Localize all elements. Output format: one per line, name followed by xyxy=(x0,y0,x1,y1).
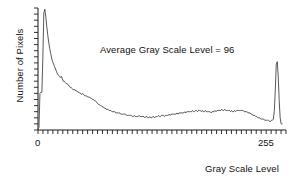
x-tick-label-min: 0 xyxy=(35,137,40,148)
plot-canvas xyxy=(0,0,298,183)
x-axis-ticks xyxy=(38,130,286,134)
histogram-figure: Number of Pixels Gray Scale Level 0 255 … xyxy=(0,0,298,183)
average-gray-level-annotation: Average Gray Scale Level = 96 xyxy=(100,44,235,55)
x-axis-label: Gray Scale Level xyxy=(205,163,279,174)
y-axis-ticks xyxy=(34,8,38,130)
axes-group xyxy=(38,8,286,130)
histogram-curve xyxy=(38,9,282,129)
y-axis-label: Number of Pixels xyxy=(14,6,25,126)
x-tick-label-max: 255 xyxy=(258,137,274,148)
